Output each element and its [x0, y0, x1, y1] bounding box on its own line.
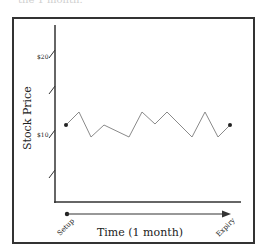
price-line — [66, 112, 230, 137]
y-tick-10 — [49, 130, 55, 138]
y-axis-label: Stock Price — [21, 86, 34, 150]
y-tick-5 — [49, 170, 55, 178]
start-price-dot — [64, 123, 68, 127]
y-tick-label-20: $20 — [37, 53, 49, 60]
y-tick-20 — [49, 50, 55, 58]
setup-label: Setup — [56, 217, 77, 238]
stock-price-chart: $20 $10 Stock Price Setup Expiry Time (1… — [0, 0, 264, 251]
time-arrow-head-icon — [222, 211, 231, 218]
y-tick-label-10: $10 — [37, 131, 49, 138]
y-tick-15 — [49, 86, 55, 94]
end-price-dot — [228, 123, 232, 127]
y-ticks: $20 $10 — [37, 50, 55, 178]
chart-frame — [13, 18, 254, 243]
expiry-label: Expiry — [215, 216, 237, 238]
x-axis-label: Time (1 month) — [97, 226, 183, 239]
